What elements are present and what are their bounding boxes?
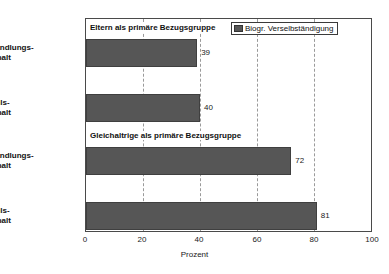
category-label-row-3-line2: haushalt [0,216,58,226]
xtick-80: 80 [310,235,319,244]
xtick-40: 40 [195,235,204,244]
bar-row-3[interactable] [86,202,317,230]
category-label-row-0-line1: Verhandlungs- [0,43,58,53]
legend-entry-label: Biogr. Verselbständigung [245,24,334,33]
bar-row-0[interactable] [86,39,197,67]
bar-row-2[interactable] [86,147,291,175]
group-title-eltern: Eltern als primäre Bezugsgruppe [89,23,216,32]
category-label-row-1: Befehls- haushalt [0,98,58,117]
category-label-row-0-line2: haushalt [0,53,58,63]
gridline-80 [314,19,315,231]
category-label-row-0: Verhandlungs- haushalt [0,43,58,62]
category-label-row-2-line2: haushalt [0,161,58,171]
bar-value-3: 81 [321,212,330,220]
xtick-60: 60 [253,235,262,244]
category-label-row-2-line1: Verhandlungs- [0,151,58,161]
group-title-gleichaltrige: Gleichaltrige als primäre Bezugsgruppe [89,131,242,140]
category-label-row-2: Verhandlungs- haushalt [0,151,58,170]
legend[interactable]: Biogr. Verselbständigung [231,22,338,35]
bar-value-2: 72 [295,157,304,165]
xtick-0: 0 [83,235,87,244]
bar-chart: Eltern als primäre Bezugsgruppe 39 40 Gl… [0,0,389,274]
category-label-row-1-line1: Befehls- [0,98,58,108]
xtick-100: 100 [365,235,378,244]
bar-value-0: 39 [201,49,210,57]
legend-swatch-icon [234,25,243,32]
category-label-row-3-line1: Befehls- [0,206,58,216]
bar-value-1: 40 [204,104,213,112]
bar-row-1[interactable] [86,94,200,122]
plot-area: Eltern als primäre Bezugsgruppe 39 40 Gl… [85,18,372,232]
category-label-row-3: Befehls- haushalt [0,206,58,225]
gridline-60 [257,19,258,231]
category-label-row-1-line2: haushalt [0,108,58,118]
x-axis-title: Prozent [0,250,389,259]
xtick-20: 20 [138,235,147,244]
